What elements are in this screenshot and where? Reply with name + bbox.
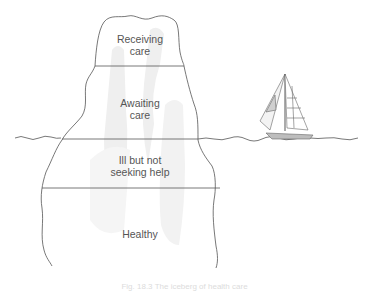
- layer-label-healthy: Healthy: [95, 228, 185, 240]
- layer-label-ill-not-seeking-help: Ill but not seeking help: [95, 154, 185, 178]
- layer-label-awaiting-care: Awaiting care: [105, 97, 175, 121]
- iceberg-diagram: [0, 0, 369, 296]
- sailboat-icon: [260, 74, 313, 139]
- iceberg-shading: [90, 28, 185, 245]
- layer-label-receiving-care: Receiving care: [105, 33, 175, 57]
- figure-caption: Fig. 18.3 The iceberg of health care: [0, 282, 369, 291]
